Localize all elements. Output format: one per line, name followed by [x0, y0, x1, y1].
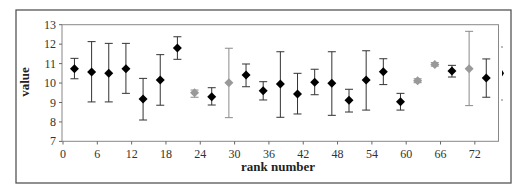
y-tick-label: 9: [50, 96, 56, 110]
x-tick-label: 24: [194, 147, 206, 161]
x-tick-label: 18: [160, 147, 172, 161]
x-tick-label: 0: [60, 147, 66, 161]
y-tick-label: 11: [44, 57, 56, 71]
x-tick-label: 30: [229, 147, 241, 161]
y-axis-title: value: [17, 67, 32, 97]
x-tick-label: 54: [366, 147, 378, 161]
x-tick-label: 72: [469, 147, 481, 161]
y-tick-label: 10: [44, 76, 56, 90]
chart-svg: 78910111213 061218243036424854606672 val…: [0, 0, 526, 195]
y-tick-label: 8: [50, 115, 56, 129]
y-tick-label: 12: [44, 37, 56, 51]
y-tick-label: 7: [50, 134, 56, 148]
x-tick-label: 6: [94, 147, 100, 161]
y-tick-label: 13: [44, 18, 56, 32]
chart-container: 78910111213 061218243036424854606672 val…: [0, 0, 526, 195]
x-tick-label: 12: [126, 147, 138, 161]
x-axis-title: rank number: [241, 159, 315, 174]
x-tick-label: 60: [400, 147, 412, 161]
x-tick-label: 48: [332, 147, 344, 161]
x-tick-label: 66: [435, 147, 447, 161]
